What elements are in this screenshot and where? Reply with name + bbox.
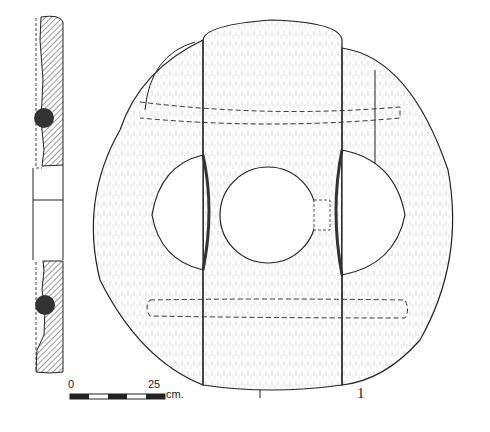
dowel-top <box>34 108 54 128</box>
scale-unit-label: cm. <box>166 388 184 400</box>
wheel-face <box>93 20 452 398</box>
scale-bar <box>70 394 165 399</box>
dowel-bottom <box>35 295 55 315</box>
scale-end-label: 25 <box>148 378 160 390</box>
hub-hole <box>220 167 316 263</box>
wheel-drawing <box>0 0 490 432</box>
figure-number: 1 <box>357 385 365 402</box>
scale-start-label: 0 <box>68 378 74 390</box>
section-view <box>33 16 63 373</box>
